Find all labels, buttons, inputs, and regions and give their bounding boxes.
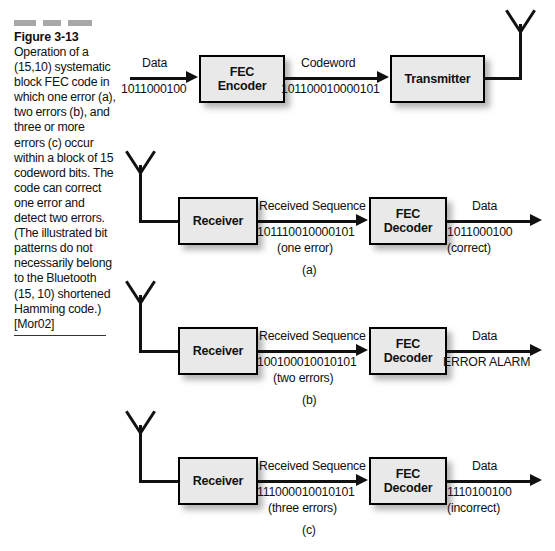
receiver-label-a: Receiver [193,214,244,228]
subfigure-label-a: (a) [302,263,316,277]
figure-number: Figure 3-13 [14,30,118,45]
received-seq-label-a: Received Sequence [259,199,366,213]
fec-decoder-label-line1-b: FEC [384,337,433,351]
antenna-arm-left [139,280,156,303]
output-bits-a: 1011000100 [447,225,512,239]
fec-encoder-label-line1: FEC [218,65,267,79]
received-seq-arrowhead-c [356,474,368,486]
figure-caption-text: Operation of a (15,10) systematic block … [14,45,118,332]
fec-decoder-box-c[interactable]: FEC Decoder [369,457,447,505]
dash-3 [68,20,92,26]
antenna-arm-right [125,280,142,303]
rx-antenna-feed-v-a [139,188,142,223]
received-seq-arrowhead-b [356,344,368,356]
antenna-arm-right [125,150,142,173]
tx-antenna-feed-v [519,46,522,80]
subfigure-label-b: (b) [302,393,316,407]
receiver-box-b[interactable]: Receiver [178,327,258,375]
dash-2 [43,20,61,26]
fec-decoder-label-a: FEC Decoder [384,207,433,235]
fec-decoder-label-c: FEC Decoder [384,467,433,495]
receive-antenna-icon-c [120,415,160,451]
rx-antenna-feed-h-b [139,350,181,353]
decorative-dashes [14,20,118,26]
receiver-box-c[interactable]: Receiver [178,457,258,505]
received-seq-label-b: Received Sequence [259,329,366,343]
data-input-arrowhead [186,71,198,83]
fec-decoder-label-line1-a: FEC [384,207,433,221]
rx-antenna-feed-v-c [139,448,142,483]
rx-antenna-feed-h-a [139,220,181,223]
decoder-output-line-a [447,220,532,223]
decoder-output-arrowhead-c [530,474,542,486]
codeword-line [285,77,379,80]
received-seq-note-c: (three errors) [268,501,337,515]
receive-antenna-icon-a [120,155,160,191]
antenna-arm-left [139,150,156,173]
received-seq-arrowhead-a [356,214,368,226]
received-seq-line-a [258,220,358,223]
receiver-box-a[interactable]: Receiver [178,197,258,245]
transmit-antenna-icon [500,14,540,50]
antenna-arm-right [125,410,142,433]
fec-encoder-label-line2: Encoder [218,79,267,93]
caption-rule [14,335,106,337]
decoder-output-arrowhead-a [530,214,542,226]
received-seq-line-c [258,480,358,483]
receive-antenna-icon-b [120,285,160,321]
decoder-output-line-b [447,350,532,353]
fec-encoder-box[interactable]: FEC Encoder [199,55,285,103]
antenna-arm-right [505,9,522,32]
tx-input-bits: 1011000100 [121,82,186,96]
antenna-arm-left [519,9,536,32]
fec-decoder-box-a[interactable]: FEC Decoder [369,197,447,245]
codeword-bits: 101100010000101 [281,82,380,96]
receiver-label-b: Receiver [193,344,244,358]
transmitter-label: Transmitter [405,72,471,86]
output-label-b: Data [472,329,497,343]
decoder-output-line-c [447,480,532,483]
rx-antenna-feed-h-c [139,480,181,483]
received-seq-bits-a: 101110010000101 [257,225,355,239]
fec-decoder-label-line2-b: Decoder [384,351,433,365]
rx-antenna-feed-v-b [139,318,142,353]
received-seq-line-b [258,350,358,353]
fec-decoder-box-b[interactable]: FEC Decoder [369,327,447,375]
dash-1 [14,20,36,26]
fec-encoder-label: FEC Encoder [218,65,267,93]
received-seq-bits-c: 111000010010101 [257,485,355,499]
subfigure-label-c: (c) [302,523,316,537]
fec-decoder-label-b: FEC Decoder [384,337,433,365]
codeword-label: Codeword [301,56,355,70]
antenna-arm-left [139,410,156,433]
received-seq-label-c: Received Sequence [259,459,366,473]
receiver-label-c: Receiver [193,474,244,488]
received-seq-note-a: (one error) [277,241,333,255]
output-note-a: (correct) [447,241,491,255]
fec-decoder-label-line2-c: Decoder [384,481,433,495]
output-note-c: (incorrect) [447,501,500,515]
output-label-c: Data [472,459,497,473]
figure-root: Figure 3-13 Operation of a (15,10) syste… [0,0,555,551]
transmitter-box[interactable]: Transmitter [390,55,485,103]
output-bits-b: ERROR ALARM [443,355,530,369]
received-seq-bits-b: 100100010010101 [257,355,357,369]
output-bits-c: 1110100100 [447,485,512,499]
fec-decoder-label-line1-c: FEC [384,467,433,481]
tx-input-label: Data [142,56,167,70]
data-input-line [130,77,188,80]
tx-antenna-feed-h [483,77,522,80]
figure-caption-block: Figure 3-13 Operation of a (15,10) syste… [14,20,118,336]
output-label-a: Data [472,199,497,213]
fec-decoder-label-line2-a: Decoder [384,221,433,235]
decoder-output-arrowhead-b [530,344,542,356]
received-seq-note-b: (two errors) [273,371,333,385]
